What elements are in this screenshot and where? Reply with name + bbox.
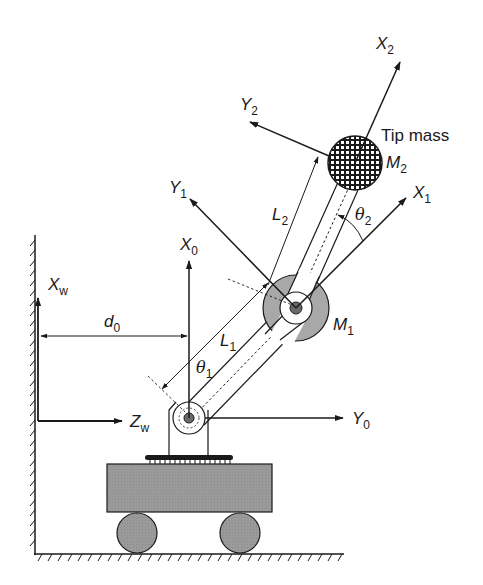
cart-body [107, 464, 272, 512]
cart-wheel-left [117, 513, 157, 553]
label-theta2: θ2 [355, 205, 372, 228]
label-y1: Y1 [169, 178, 187, 201]
label-l1: L1 [220, 331, 236, 354]
label-m1: M1 [333, 315, 354, 338]
label-zw: Zw [129, 412, 149, 435]
floor [34, 554, 344, 561]
base-plate [145, 455, 233, 464]
label-xw: Xw [47, 275, 68, 298]
axis-y2 [250, 122, 329, 156]
cart-wheel-right [220, 513, 260, 553]
label-x2: X2 [375, 34, 394, 57]
label-y2: Y2 [240, 95, 258, 118]
label-m2: M2 [386, 153, 407, 176]
label-x0: X0 [179, 235, 198, 258]
label-d0: d0 [104, 312, 120, 335]
label-y0: Y0 [352, 409, 370, 432]
robot-arm-diagram: X2 Y2 Tip mass M2 Y1 X1 L2 θ2 X0 Xw d0 M… [0, 0, 483, 585]
label-x1: X1 [412, 183, 431, 206]
label-theta1: θ1 [196, 358, 213, 381]
label-l2: L2 [272, 205, 288, 228]
axis-x1 [296, 198, 406, 308]
label-tip-mass: Tip mass [381, 126, 449, 145]
wall [30, 235, 35, 555]
elbow-joint-mass-m1 [263, 268, 329, 350]
